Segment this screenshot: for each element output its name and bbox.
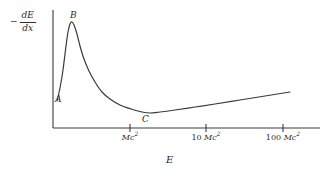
y-axis-label-sign: − <box>10 17 18 27</box>
y-axis-label-denominator: dx <box>21 24 34 34</box>
x-axis-label: E <box>166 155 173 165</box>
tick-exponent-0: 2 <box>134 130 138 137</box>
tick-exponent-2: 2 <box>296 130 300 137</box>
tick-unit-1: Mc <box>204 133 217 142</box>
x-tick-label-10mc2: 10 Mc2 <box>191 133 220 142</box>
dedx-curve <box>57 22 290 113</box>
x-tick-label-mc2: Mc2 <box>122 133 139 142</box>
annotation-label-b: B <box>70 11 77 20</box>
tick-unit-2: Mc <box>284 133 297 142</box>
tick-exponent-1: 2 <box>217 130 221 137</box>
tick-unit-0: Mc <box>122 133 135 142</box>
y-axis-label-fraction: dE dx <box>20 11 36 33</box>
annotation-label-c: C <box>142 115 149 124</box>
x-tick-label-100mc2: 100 Mc2 <box>266 133 300 142</box>
plot-canvas <box>0 0 328 177</box>
y-axis-label-numerator: dE <box>20 11 34 21</box>
tick-number-2: 100 <box>266 133 281 142</box>
tick-number-1: 10 <box>191 133 201 142</box>
annotation-label-a: A <box>55 95 62 104</box>
energy-loss-figure: − dE dx E A B C Mc2 10 Mc2 100 Mc2 <box>0 0 328 177</box>
y-axis-label: − dE dx <box>10 11 36 33</box>
